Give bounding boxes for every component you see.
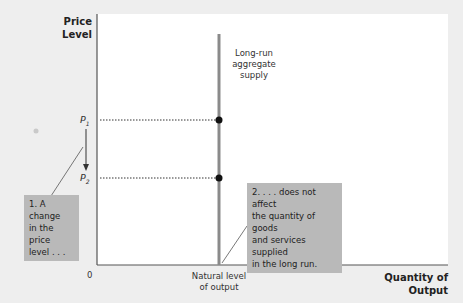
p2-subscript: 2 xyxy=(86,178,90,185)
lras-label-line3: supply xyxy=(227,70,281,81)
callout-price-change: 1. A change in the price level . . . xyxy=(24,195,79,261)
x-axis-label-line1: Quantity of xyxy=(384,271,448,284)
x-axis-label-line2: Output xyxy=(384,284,448,297)
diagram: Price Level Quantity of Output 0 Long-ru… xyxy=(0,0,463,303)
y-axis-label: Price Level xyxy=(58,15,92,41)
callout-2-line2: the quantity of goods xyxy=(252,210,337,234)
callout-1-line3: level . . . xyxy=(29,246,74,258)
point-p2 xyxy=(216,175,223,182)
callout-2-line3: and services supplied xyxy=(252,234,337,258)
lras-label: Long-run aggregate supply xyxy=(227,48,281,81)
natural-output-line1: Natural level xyxy=(184,271,254,282)
callout-2-line1: 2. . . . does not affect xyxy=(252,186,337,210)
lras-label-line2: aggregate xyxy=(227,59,281,70)
x-axis-label: Quantity of Output xyxy=(384,271,448,297)
natural-output-line2: of output xyxy=(184,282,254,293)
callout-2-leader xyxy=(222,226,247,263)
origin-label: 0 xyxy=(87,270,92,281)
callout-no-effect: 2. . . . does not affect the quantity of… xyxy=(247,183,342,273)
smudge-mark xyxy=(34,129,39,134)
arrow-down-icon xyxy=(83,164,89,171)
p2-label: P2 xyxy=(80,172,90,187)
callout-1-line2: in the price xyxy=(29,222,74,246)
lras-label-line1: Long-run xyxy=(227,48,281,59)
point-p1 xyxy=(216,117,223,124)
callout-2-line4: in the long run. xyxy=(252,258,337,270)
natural-output-label: Natural level of output xyxy=(184,271,254,293)
y-axis-label-line1: Price xyxy=(58,15,92,28)
p1-label: P1 xyxy=(80,114,90,129)
callout-1-line1: 1. A change xyxy=(29,198,74,222)
y-axis-label-line2: Level xyxy=(58,28,92,41)
callout-1-leader xyxy=(51,147,83,196)
p1-subscript: 1 xyxy=(86,120,90,127)
